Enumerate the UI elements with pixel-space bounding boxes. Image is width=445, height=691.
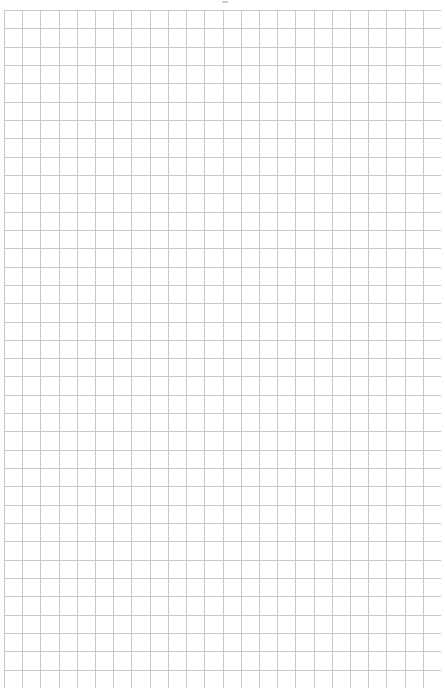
top-mark <box>222 1 228 3</box>
grid-lines <box>4 10 441 688</box>
graph-paper-grid <box>4 10 441 688</box>
